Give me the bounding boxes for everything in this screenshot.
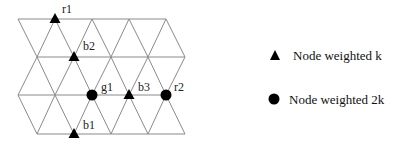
lattice-edge (18, 19, 37, 57)
lattice-edge (129, 95, 148, 134)
circle-icon (269, 94, 280, 105)
circle-icon (87, 90, 98, 101)
legend-item-weight-k: Node weighted k (270, 48, 382, 63)
triangle-icon (69, 51, 80, 61)
triangle-icon (50, 13, 61, 23)
lattice-edge (55, 19, 74, 57)
lattice-edge (37, 95, 55, 134)
legend: Node weighted k Node weighted 2k (269, 48, 385, 107)
lattice-edge (37, 19, 55, 57)
lattice-edge (111, 95, 129, 134)
lattice-edge (18, 95, 37, 134)
lattice-edge (148, 19, 166, 57)
node-label-b2: b2 (83, 39, 95, 53)
lattice-edge (111, 57, 129, 95)
node-label-b3: b3 (138, 80, 150, 94)
node-label-r1: r1 (62, 2, 72, 16)
legend-label-2k: Node weighted 2k (289, 92, 385, 107)
triangle-icon (69, 128, 80, 138)
lattice-edge (166, 95, 185, 134)
lattice-edge (18, 57, 37, 95)
legend-item-weight-2k: Node weighted 2k (269, 92, 385, 107)
triangle-icon (270, 50, 280, 60)
triangle-icon (124, 89, 135, 99)
lattice-edge (148, 57, 166, 95)
lattice-edge (166, 19, 185, 57)
node-label-g1: g1 (101, 80, 113, 94)
lattice-edge (55, 95, 74, 134)
lattice-edges (18, 19, 185, 134)
circle-icon (161, 90, 172, 101)
lattice-edge (129, 19, 148, 57)
lattice-diagram: r1b2g1b3r2b1 Node weighted k Node weight… (0, 0, 403, 145)
node-label-r2: r2 (174, 80, 184, 94)
lattice-edge (37, 57, 55, 95)
lattice-edge (55, 57, 74, 95)
lattice-edge (74, 57, 92, 95)
node-label-b1: b1 (83, 118, 95, 132)
lattice-edge (111, 19, 129, 57)
lattice-edge (148, 95, 166, 134)
legend-label-k: Node weighted k (293, 48, 382, 63)
